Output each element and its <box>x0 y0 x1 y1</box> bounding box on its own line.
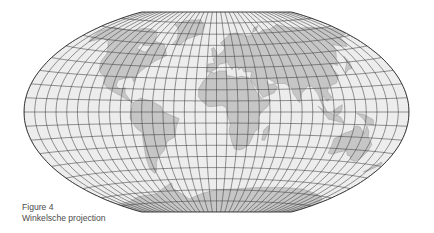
world-map <box>0 0 434 233</box>
figure-label: Figure 4 <box>22 202 106 213</box>
figure-caption: Figure 4 Winkelsche projection <box>22 202 106 223</box>
figure-title: Winkelsche projection <box>22 213 106 224</box>
